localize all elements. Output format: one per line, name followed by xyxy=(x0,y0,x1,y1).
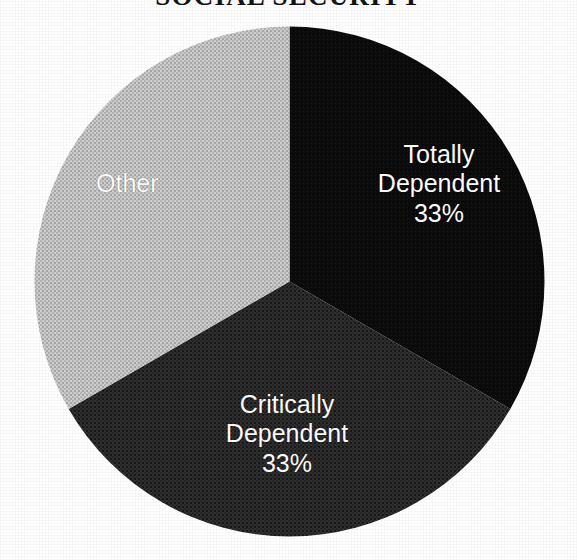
pie-label-totally-dependent-line1: Totally xyxy=(404,140,475,168)
pie-label-other-line1: Other xyxy=(96,169,159,197)
pie-label-totally-dependent: Totally Dependent 33% xyxy=(359,140,519,228)
pie-label-totally-dependent-line2: Dependent xyxy=(378,169,500,197)
pie-label-critically-dependent-line2: Dependent xyxy=(226,419,348,447)
pie-label-critically-dependent-value: 33% xyxy=(189,449,385,478)
pie-label-totally-dependent-value: 33% xyxy=(359,199,519,228)
pie-label-critically-dependent: Critically Dependent 33% xyxy=(189,390,385,478)
pie-label-other: Other xyxy=(96,169,216,198)
pie-label-critically-dependent-line1: Critically xyxy=(240,390,334,418)
chart-title: SOCIAL SECURITY xyxy=(0,0,577,12)
pie-chart-figure: SOCIAL SECURITY xyxy=(0,0,577,560)
